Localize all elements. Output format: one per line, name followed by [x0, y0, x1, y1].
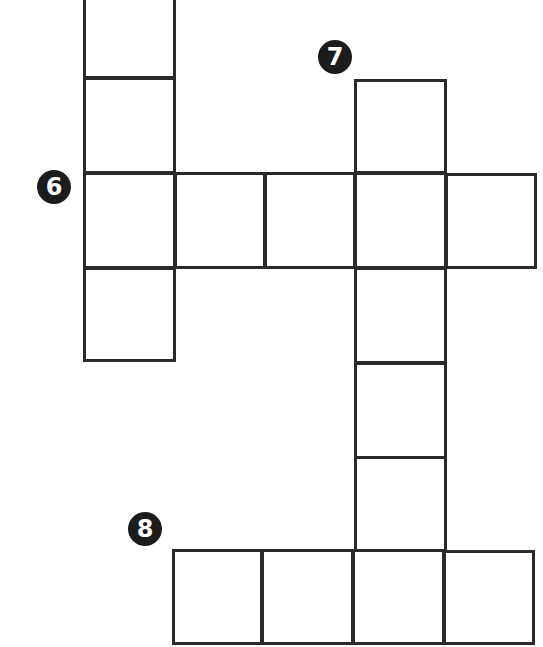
crossword-cell-7-down-1[interactable] [354, 79, 447, 174]
clue-number-badge-8: 8 [128, 512, 162, 546]
crossword-cell-6-across-1[interactable] [83, 172, 176, 269]
crossword-cell-left-col-4[interactable] [83, 267, 176, 362]
crossword-cell-7-down-3[interactable] [354, 267, 447, 364]
crossword-cell-6-across-2[interactable] [174, 172, 266, 269]
crossword-cell-6-across-4[interactable] [354, 172, 447, 269]
crossword-cell-6-across-5[interactable] [445, 173, 537, 269]
clue-number-badge-7: 7 [318, 40, 352, 74]
crossword-cell-6-across-3[interactable] [264, 172, 356, 269]
clue-number-badge-6: 6 [37, 170, 71, 204]
crossword-cell-7-down-4[interactable] [354, 362, 447, 459]
crossword-cell-7-down-5[interactable] [354, 456, 447, 552]
crossword-cell-left-col-2[interactable] [83, 77, 176, 174]
crossword-cell-8-across-4[interactable] [443, 550, 535, 645]
crossword-cell-8-across-2[interactable] [261, 549, 354, 645]
crossword-grid: 6 7 8 [0, 0, 543, 647]
crossword-cell-8-across-1[interactable] [172, 549, 263, 645]
crossword-cell-8-across-3[interactable] [352, 549, 445, 645]
crossword-cell-left-col-1[interactable] [83, 0, 176, 79]
